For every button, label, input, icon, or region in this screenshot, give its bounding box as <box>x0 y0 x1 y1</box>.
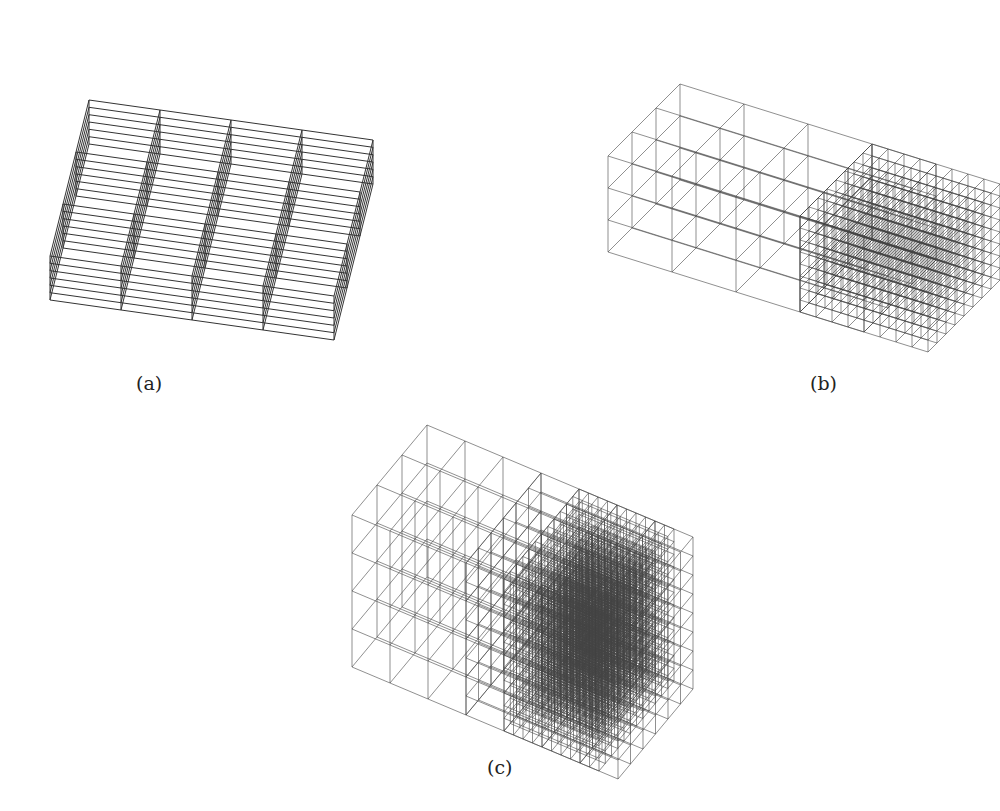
wireframe-grid-c <box>300 370 750 790</box>
panel-b <box>500 0 1000 400</box>
wireframe-grid-a <box>0 0 500 400</box>
panel-a <box>0 0 500 400</box>
panel-c <box>300 370 750 790</box>
caption-a: (a) <box>136 372 162 394</box>
caption-b: (b) <box>810 372 837 394</box>
caption-c: (c) <box>487 756 512 778</box>
wireframe-grid-b <box>500 0 1000 400</box>
